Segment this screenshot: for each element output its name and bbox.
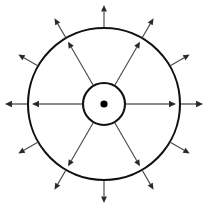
inner-arrow-0-head xyxy=(169,101,176,107)
outer-arrow-9-head xyxy=(101,197,107,204)
outer-arrow-6-head xyxy=(5,101,12,107)
center-dot-icon xyxy=(100,100,107,107)
outer-arrow-5-shaft xyxy=(24,58,37,66)
outer-arrow-8-shaft xyxy=(58,171,66,184)
inner-arrow-4-shaft xyxy=(71,122,93,161)
outer-arrow-0-head xyxy=(196,101,203,107)
outer-arrow-7-shaft xyxy=(24,143,37,151)
inner-arrow-1-shaft xyxy=(115,47,137,86)
figure-canvas xyxy=(0,0,216,209)
outer-arrow-10-shaft xyxy=(143,171,151,184)
inner-arrow-3-head xyxy=(32,101,39,107)
inner-arrow-5-shaft xyxy=(115,122,137,161)
outer-arrow-11-shaft xyxy=(171,143,184,151)
inner-arrow-2-shaft xyxy=(71,47,93,86)
outer-arrow-2-shaft xyxy=(143,24,151,37)
outer-arrow-3-head xyxy=(101,5,107,12)
outer-arrow-1-shaft xyxy=(171,58,184,66)
radial-field-figure xyxy=(0,0,216,209)
outer-arrow-4-shaft xyxy=(58,24,66,37)
